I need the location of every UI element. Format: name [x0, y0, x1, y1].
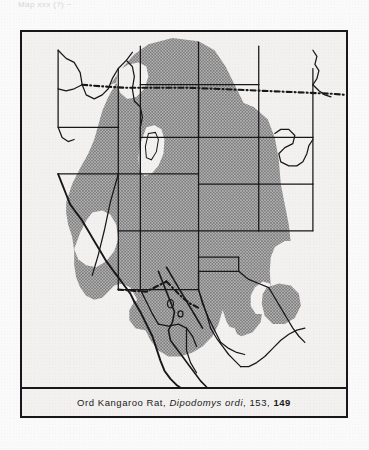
caption-common-name: Ord Kangaroo Rat, [77, 397, 166, 408]
distribution-map [22, 32, 346, 390]
caption-scientific-name: Dipodomys ordi [169, 397, 243, 408]
page-running-head: Map xxx (?) ~ [18, 0, 278, 9]
map-panel [22, 32, 346, 390]
caption-page-ref-bold: 149 [273, 397, 291, 408]
caption-page-ref: 153, [249, 397, 270, 408]
caption-text: Ord Kangaroo Rat, Dipodomys ordi, 153, 1… [77, 397, 291, 408]
caption-separator: , [243, 397, 246, 408]
figure-frame: Ord Kangaroo Rat, Dipodomys ordi, 153, 1… [20, 30, 348, 418]
figure-caption: Ord Kangaroo Rat, Dipodomys ordi, 153, 1… [22, 387, 346, 416]
